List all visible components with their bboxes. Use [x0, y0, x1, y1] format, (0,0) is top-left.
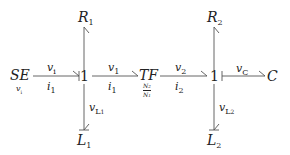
- bond-j1-tf-flow: i1: [108, 81, 117, 95]
- bond-j2-c-effort: vC: [236, 63, 248, 77]
- bond-j1-r1: [84, 27, 89, 70]
- source-se-label: SE: [10, 68, 30, 82]
- resistor-r1-label: R1: [78, 10, 94, 27]
- inductor-l2-label: L2: [207, 133, 221, 150]
- transformer-tf-label: TF: [139, 68, 158, 82]
- bond-j1-tf-effort: v1: [108, 62, 119, 76]
- junction-1: 1: [80, 69, 89, 83]
- bond-j2-l2-effort: vL2: [219, 102, 234, 116]
- bond-se-j1-effort: vi: [47, 62, 56, 76]
- bond-j2-l2: [209, 84, 219, 130]
- bond-j2-r2: [214, 27, 219, 70]
- bond-j1-l1: [79, 84, 89, 130]
- capacitor-c-label: C: [267, 69, 278, 83]
- source-sub-label: vi: [16, 85, 22, 95]
- bond-se-j1: [33, 71, 79, 81]
- transformer-ratio: N2 N1: [143, 83, 151, 98]
- bond-tf-j2-flow: i2: [175, 81, 184, 95]
- resistor-r2-label: R2: [207, 10, 223, 27]
- bond-j1-l1-effort: vL1: [89, 102, 104, 116]
- bond-se-j1-flow: i1: [47, 81, 56, 95]
- bond-tf-j2-effort: v2: [175, 62, 186, 76]
- junction-2: 1: [210, 69, 219, 83]
- inductor-l1-label: L1: [77, 133, 91, 150]
